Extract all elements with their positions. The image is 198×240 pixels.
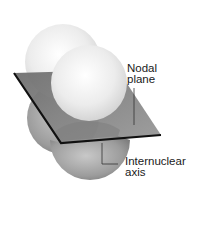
nodal-plane-label: Nodal plane [127,63,157,85]
upper-lobe-front [51,45,127,121]
internuclear-axis-label: Internuclear axis [125,156,186,178]
internuclear-axis-label-line2: axis [125,167,186,178]
nodal-plane-label-line2: plane [127,74,157,85]
